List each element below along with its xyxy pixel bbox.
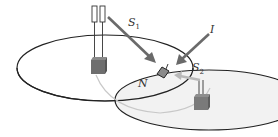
primary-base-station xyxy=(91,6,107,74)
label-S2: S2 xyxy=(192,61,204,76)
network-diagram: S1 I N S2 xyxy=(0,0,278,137)
label-S1: S1 xyxy=(128,16,140,31)
label-N: N xyxy=(137,77,148,90)
label-I: I xyxy=(209,23,215,36)
